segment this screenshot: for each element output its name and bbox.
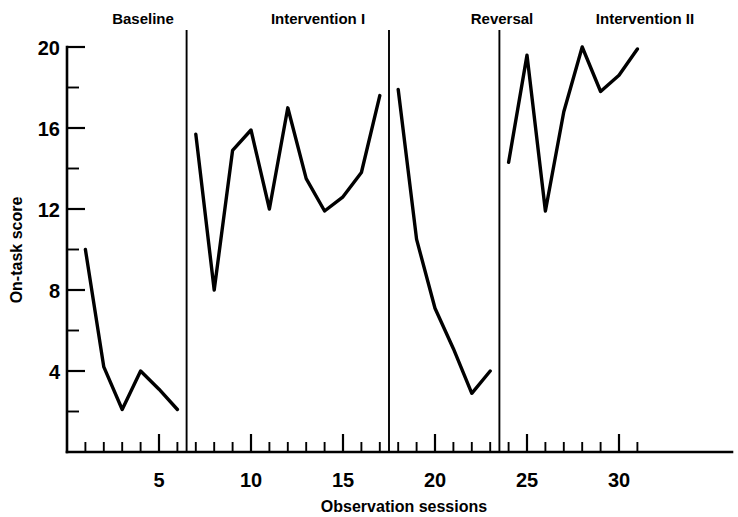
x-tick-label-20: 20 xyxy=(424,469,446,491)
y-tick-label-8: 8 xyxy=(49,280,60,302)
y-tick-label-16: 16 xyxy=(38,118,60,140)
x-axis-title: Observation sessions xyxy=(321,498,487,515)
x-tick-label-15: 15 xyxy=(332,469,354,491)
y-tick-label-12: 12 xyxy=(38,199,60,221)
phase-label-baseline: Baseline xyxy=(112,10,174,27)
y-tick-label-4: 4 xyxy=(49,361,61,383)
x-tick-label-30: 30 xyxy=(608,469,630,491)
chart-container: Baseline Intervention I Reversal Interve… xyxy=(0,0,738,517)
x-tick-label-10: 10 xyxy=(240,469,262,491)
y-tick-label-20: 20 xyxy=(38,37,60,59)
phase-label-reversal: Reversal xyxy=(471,10,534,27)
phase-label-intervention-1: Intervention I xyxy=(271,10,365,27)
chart-background xyxy=(0,0,738,517)
line-chart: Baseline Intervention I Reversal Interve… xyxy=(0,0,738,517)
x-tick-label-25: 25 xyxy=(516,469,538,491)
x-tick-label-5: 5 xyxy=(153,469,164,491)
y-axis-title: On-task score xyxy=(8,197,25,304)
phase-label-intervention-2: Intervention II xyxy=(596,10,694,27)
